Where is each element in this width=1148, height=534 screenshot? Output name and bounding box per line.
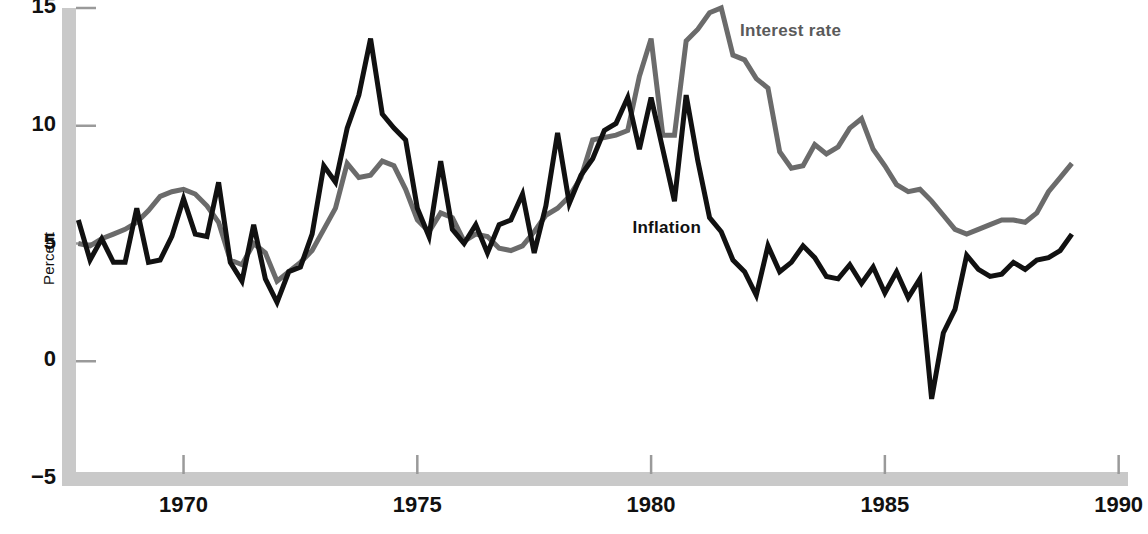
chart-container: Percent −5051015 19701975198019851990 In… xyxy=(0,0,1148,534)
x-tick-label: 1975 xyxy=(357,492,477,518)
y-tick-label: 0 xyxy=(0,346,56,372)
series-line-inflation xyxy=(78,39,1072,399)
y-axis-ticks xyxy=(76,8,96,361)
y-tick-label: 10 xyxy=(0,111,56,137)
y-tick-label: 5 xyxy=(0,229,56,255)
x-tick-label: 1985 xyxy=(825,492,945,518)
axis-group xyxy=(62,8,1128,486)
x-tick-label: 1970 xyxy=(124,492,244,518)
y-tick-label: 15 xyxy=(0,0,56,19)
series-annotation-interest-rate: Interest rate xyxy=(740,21,841,41)
x-tick-label: 1990 xyxy=(1059,492,1148,518)
y-axis-band xyxy=(62,8,76,486)
y-tick-label: −5 xyxy=(0,464,56,490)
y-axis-title: Percent xyxy=(40,199,57,319)
series-group xyxy=(78,8,1072,399)
line-chart-svg xyxy=(0,0,1148,534)
x-tick-label: 1980 xyxy=(591,492,711,518)
series-annotation-inflation: Inflation xyxy=(632,218,701,238)
x-axis-ticks xyxy=(184,455,1119,474)
x-axis-band xyxy=(62,472,1128,486)
